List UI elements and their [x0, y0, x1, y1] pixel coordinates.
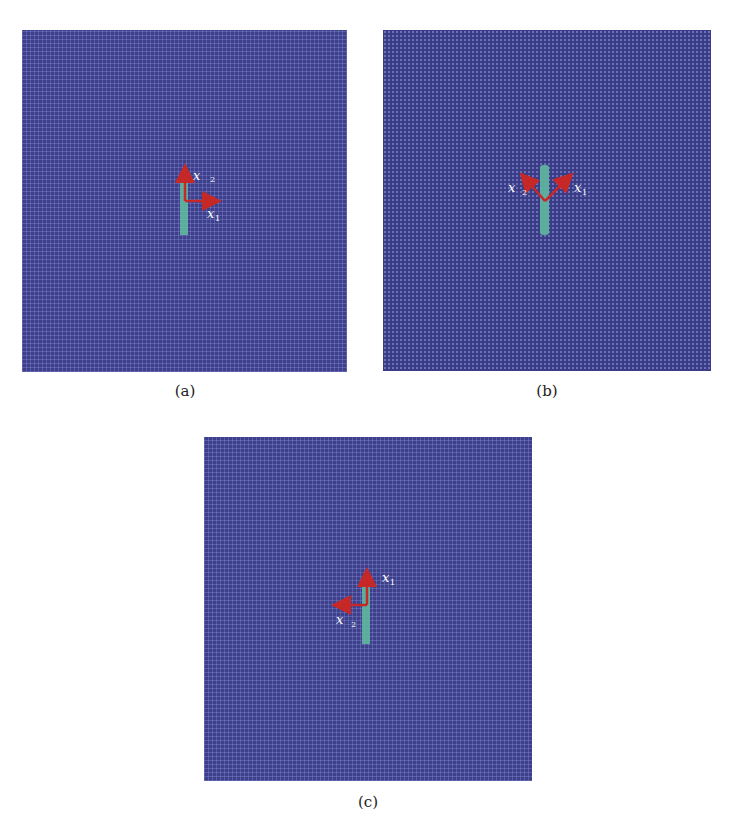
axes-overlay-c: x 1 x 2	[0, 0, 732, 825]
svg-text:2: 2	[351, 620, 356, 629]
svg-text:x: x	[382, 570, 390, 585]
svg-text:1: 1	[390, 578, 395, 587]
svg-text:x: x	[336, 612, 344, 627]
caption-c: (c)	[348, 793, 388, 811]
